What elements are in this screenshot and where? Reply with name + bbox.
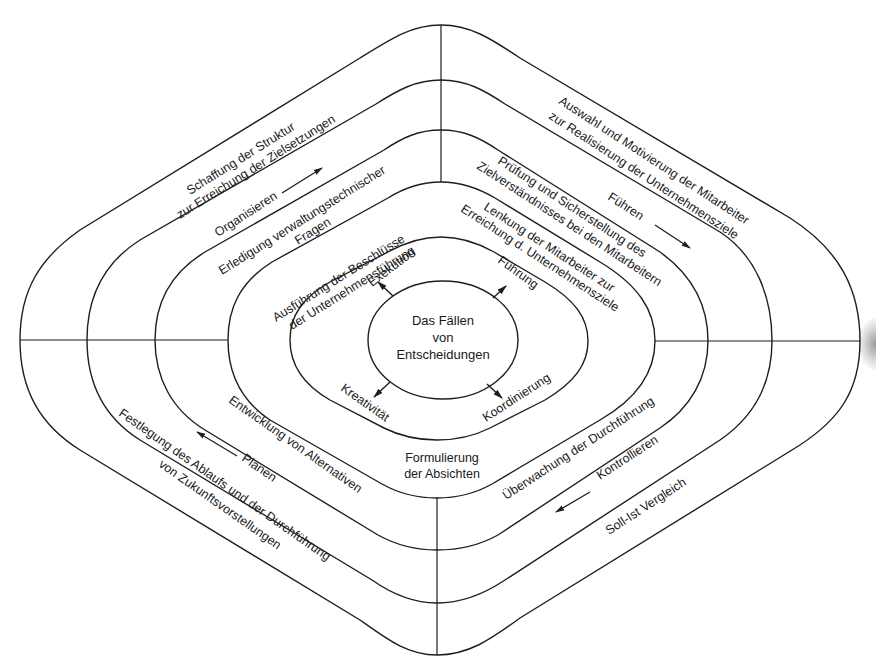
- label-formulierung-2: der Absichten: [404, 467, 480, 481]
- arrow-fuehren-icon: [655, 225, 690, 248]
- center-title-line1: Das Fällen: [412, 313, 474, 328]
- arrow-kreativitaet-icon: [374, 382, 390, 397]
- center-title-line3: Entscheidungen: [396, 347, 489, 362]
- label-koordinierung: Koordinierung: [480, 370, 553, 424]
- label-festlegung-1: Festlegung des Ablaufs und der Durchführ…: [116, 406, 333, 564]
- label-fuehren: Führen: [605, 190, 646, 223]
- label-ausfuehrung-2: der Unternehmensführung: [286, 243, 417, 332]
- label-formulierung-1: Formulierung: [405, 451, 479, 465]
- center-title-line2: von: [433, 330, 454, 345]
- arrow-fuehrung-icon: [493, 286, 506, 298]
- arrow-kontrollieren-icon: [556, 492, 590, 512]
- label-kontrollieren: Kontrollieren: [594, 433, 661, 483]
- arrow-planen-icon: [197, 432, 237, 456]
- label-planen: Planen: [239, 451, 279, 485]
- label-soll-ist: Soll-Ist Vergleich: [603, 475, 689, 537]
- label-entwicklung: Entwicklung von Alternativen: [226, 393, 364, 496]
- management-cycle-diagram: Das Fällen von Entscheidungen Exekution …: [0, 0, 876, 662]
- arrow-koordinierung-icon: [487, 384, 502, 398]
